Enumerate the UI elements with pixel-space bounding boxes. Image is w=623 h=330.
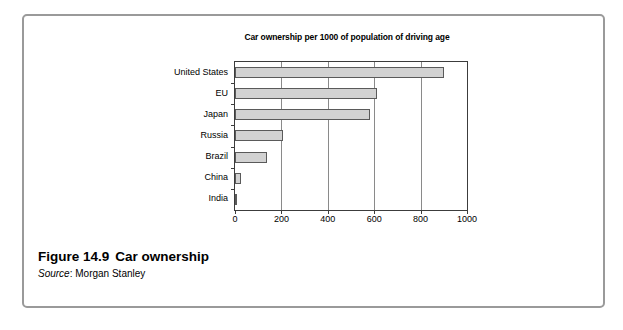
y-axis-tick [231, 189, 235, 190]
chart-title: Car ownership per 1000 of population of … [222, 32, 472, 43]
chart-container: Car ownership per 1000 of population of … [24, 16, 607, 244]
y-axis-label: EU [98, 88, 228, 98]
bar-slot [235, 104, 467, 125]
bar[interactable] [235, 109, 370, 120]
bar-slot [235, 83, 467, 104]
x-axis-label: 400 [308, 214, 348, 224]
x-axis-label: 0 [215, 214, 255, 224]
bar[interactable] [235, 152, 267, 163]
y-axis-label: Brazil [98, 151, 228, 161]
y-axis-label: Japan [98, 109, 228, 119]
y-axis-tick [231, 168, 235, 169]
x-axis-label: 600 [354, 214, 394, 224]
bar-slot [235, 62, 467, 83]
bar-slot [235, 125, 467, 146]
bar[interactable] [235, 67, 444, 78]
y-axis-label: China [98, 172, 228, 182]
plot-area: 02004006008001000 [234, 61, 468, 211]
bar-slot [235, 147, 467, 168]
figure-caption: Figure 14.9Car ownership Source: Morgan … [38, 248, 593, 281]
y-axis-tick [231, 83, 235, 84]
y-axis-tick [231, 147, 235, 148]
bar[interactable] [235, 194, 237, 205]
figure-frame: Car ownership per 1000 of population of … [22, 14, 605, 308]
x-axis-label: 800 [401, 214, 441, 224]
y-axis-tick [231, 104, 235, 105]
figure-title: Car ownership [115, 249, 209, 264]
bar-series [235, 62, 467, 210]
x-axis-label: 200 [261, 214, 301, 224]
y-axis-label: India [98, 193, 228, 203]
y-axis-label: United States [98, 67, 228, 77]
source-line: Source: Morgan Stanley [38, 267, 593, 281]
chart-title-line-1: Car ownership per 1000 of population of [244, 32, 403, 42]
chart-title-line-2: driving age [405, 32, 449, 42]
y-axis-tick [231, 125, 235, 126]
figure-number: Figure 14.9 [38, 249, 109, 264]
bar[interactable] [235, 173, 241, 184]
bar[interactable] [235, 88, 377, 99]
bar[interactable] [235, 130, 283, 141]
source-separator: : [70, 268, 73, 279]
bar-slot [235, 168, 467, 189]
source-label: Source [38, 268, 70, 279]
x-axis-label: 1000 [447, 214, 487, 224]
y-axis-category-labels: United StatesEUJapanRussiaBrazilChinaInd… [96, 61, 228, 209]
caption-heading: Figure 14.9Car ownership [38, 248, 593, 265]
y-axis-label: Russia [98, 130, 228, 140]
bar-slot [235, 189, 467, 210]
source-value: Morgan Stanley [75, 268, 145, 279]
